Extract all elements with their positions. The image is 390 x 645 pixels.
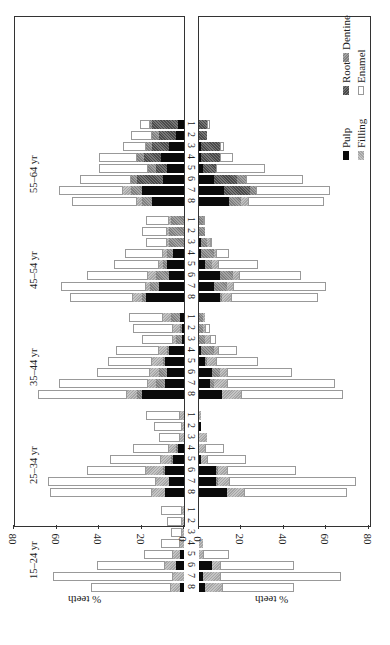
- bar-tooth-3: [142, 335, 184, 344]
- enamel-segment: [146, 238, 167, 247]
- enamel-segment: [218, 346, 237, 355]
- bar-tooth-6: [97, 368, 184, 377]
- tick-label: 0: [192, 529, 204, 549]
- bar-tooth-3: [123, 142, 184, 151]
- bar-tooth-1: [199, 120, 210, 129]
- enamel-segment: [203, 550, 228, 559]
- pulp-segment: [165, 379, 184, 388]
- dentine-segment: [156, 379, 164, 388]
- pulp-segment: [199, 197, 229, 206]
- enamel-segment: [108, 357, 153, 366]
- enamel-segment: [216, 249, 229, 258]
- enamel-segment: [59, 379, 148, 388]
- enamel-segment: [229, 477, 356, 486]
- dentine-segment: [199, 227, 205, 236]
- enamel-segment: [154, 422, 182, 431]
- bar-tooth-4: [199, 346, 237, 355]
- filling-segment: [207, 357, 215, 366]
- enamel-segment: [222, 583, 294, 592]
- filling-segment: [150, 368, 158, 377]
- bar-tooth-7: [53, 572, 184, 581]
- pulp-segment: [199, 390, 222, 399]
- bar-tooth-6: [87, 271, 184, 280]
- pulp-segment: [165, 466, 184, 475]
- filling-segment: [123, 186, 131, 195]
- enamel-segment: [38, 390, 127, 399]
- pulp-segment: [169, 346, 184, 355]
- pulp-segment: [199, 186, 224, 195]
- bar-tooth-7: [199, 282, 326, 291]
- x-axis-title-lower: % teeth: [255, 594, 288, 606]
- pulp-segment: [146, 293, 184, 302]
- tick-label: 20: [234, 529, 246, 549]
- filling-segment: [148, 271, 156, 280]
- tick-label: 80: [362, 529, 374, 549]
- bar-tooth-3: [199, 335, 216, 344]
- enamel-segment: [227, 379, 335, 388]
- tooth-label: 1: [187, 408, 196, 421]
- pulp-segment: [159, 282, 184, 291]
- age-group-label: 55–64 yr: [28, 155, 39, 193]
- bar-tooth-7: [48, 477, 184, 486]
- root-segment: [152, 142, 169, 151]
- bar-tooth-6: [199, 466, 296, 475]
- dentine-segment: [201, 249, 214, 258]
- enamel-segment: [227, 466, 297, 475]
- pulp-segment: [165, 488, 184, 497]
- bar-tooth-5: [199, 455, 246, 464]
- bar-tooth-6: [97, 561, 184, 570]
- dentine-segment: [171, 313, 179, 322]
- bar-tooth-5: [199, 260, 258, 269]
- bar-tooth-4: [133, 444, 184, 453]
- filling-segment: [218, 477, 229, 486]
- dentine-segment: [156, 271, 169, 280]
- filling-segment: [203, 572, 220, 581]
- age-group-label: 25–34 yr: [28, 446, 39, 484]
- bar-tooth-8: [70, 293, 184, 302]
- enamel-segment: [80, 175, 131, 184]
- pulp-segment: [176, 561, 184, 570]
- bar-tooth-3: [159, 433, 184, 442]
- enamel-segment: [244, 488, 348, 497]
- bar-tooth-4: [199, 249, 229, 258]
- bar-tooth-7: [199, 477, 356, 486]
- enamel-segment: [131, 131, 152, 140]
- enamel-segment: [220, 153, 233, 162]
- enamel-segment: [91, 583, 172, 592]
- filling-segment: [163, 313, 171, 322]
- pulp-segment: [178, 120, 184, 129]
- enamel-segment: [97, 368, 150, 377]
- dentine-segment: [150, 282, 158, 291]
- pulp-segment: [199, 293, 220, 302]
- bar-tooth-8: [199, 197, 324, 206]
- enamel-segment: [231, 293, 318, 302]
- enamel-segment: [48, 477, 156, 486]
- enamel-segment: [205, 444, 224, 453]
- pulp-segment: [199, 561, 212, 570]
- enamel-segment: [216, 357, 258, 366]
- enamel-segment: [207, 120, 209, 129]
- enamel-segment: [161, 506, 182, 515]
- pulp-segment: [167, 368, 184, 377]
- bar-tooth-5: [199, 550, 229, 559]
- filling-segment: [156, 477, 169, 486]
- pulp-segment: [199, 379, 210, 388]
- bar-tooth-4: [116, 346, 184, 355]
- enamel-segment: [59, 186, 123, 195]
- enamel-segment: [70, 293, 134, 302]
- filling-segment: [182, 422, 184, 431]
- enamel-segment: [256, 186, 330, 195]
- filling-segment: [159, 346, 167, 355]
- bar-tooth-2: [199, 422, 201, 431]
- bar-tooth-2: [142, 227, 184, 236]
- bar-tooth-2: [199, 227, 205, 236]
- bar-tooth-2: [154, 422, 184, 431]
- enamel-segment: [146, 216, 169, 225]
- filling-segment: [180, 433, 184, 442]
- enamel-segment: [205, 324, 209, 333]
- bar-tooth-3: [199, 433, 207, 442]
- tooth-label: 1: [187, 310, 196, 323]
- filling-segment: [133, 293, 141, 302]
- age-group-label: 15–24 yr: [28, 541, 39, 579]
- enamel-segment: [125, 249, 163, 258]
